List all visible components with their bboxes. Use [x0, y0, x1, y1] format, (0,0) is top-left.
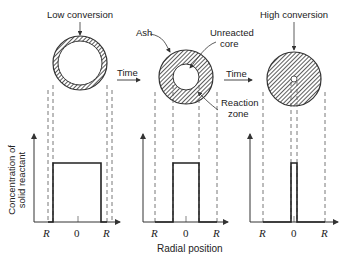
label-unreacted-core-2: core [220, 39, 238, 49]
label-high-conversion: High conversion [260, 10, 328, 20]
label-unreacted-core-1: Unreacted [210, 28, 254, 38]
tick-zero-2: 0 [183, 228, 189, 239]
tick-r-right-3: R [321, 228, 328, 239]
particle-high-conversion [267, 22, 321, 106]
profile-mid-conversion [155, 163, 217, 222]
time-label-1: Time [117, 68, 138, 78]
tick-r-right-1: R [103, 228, 110, 239]
tick-r-left-1: R [43, 228, 50, 239]
tick-zero-1: 0 [74, 228, 80, 239]
particle-low-conversion [53, 22, 107, 90]
x-axis-label: Radial position [157, 244, 223, 254]
time-label-2: Time [226, 69, 247, 79]
tick-r-left-3: R [259, 228, 266, 239]
label-reaction-zone-2: zone [228, 109, 249, 119]
tick-r-left-2: R [151, 228, 158, 239]
label-low-conversion: Low conversion [47, 10, 113, 20]
plot-2-axes [143, 134, 228, 222]
tick-zero-3: 0 [291, 228, 297, 239]
label-reaction-zone-1: Reaction [221, 98, 259, 108]
particle-mid-conversion [150, 34, 218, 110]
shrinking-core-diagram [0, 0, 347, 262]
y-axis-label: Concentration of solid reactant [7, 125, 27, 235]
tick-r-right-2: R [213, 228, 220, 239]
label-ash: Ash [136, 28, 152, 38]
profile-low-conversion [48, 163, 107, 222]
profile-high-conversion [263, 163, 325, 222]
